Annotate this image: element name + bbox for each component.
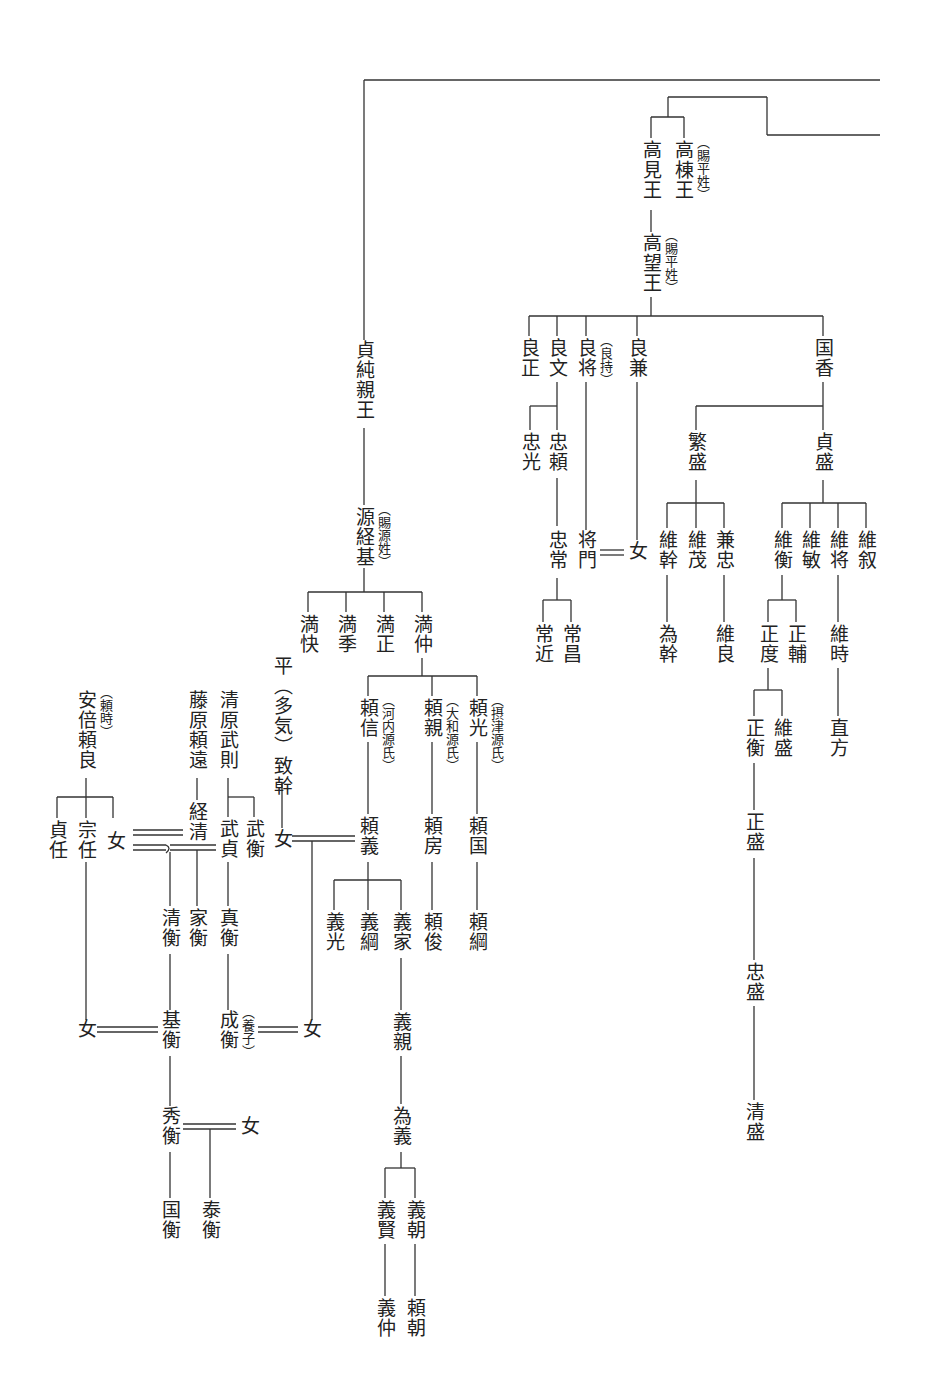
node-sadamori: 貞盛 <box>812 432 834 472</box>
node-naokata: 直方 <box>827 718 849 758</box>
node-korehira: 維衡 <box>771 530 793 570</box>
node-abe-yoritoki: 安倍頼良（頼時） <box>75 690 113 770</box>
node-hidehira: 秀衡 <box>159 1106 181 1146</box>
node-yoritoshi: 頼俊 <box>421 912 443 952</box>
node-tsunekiyo: 経清 <box>186 802 208 842</box>
node-kiyohara-takenori: 清原武則 <box>217 690 239 770</box>
node-yoshifumi: 良文 <box>546 338 568 378</box>
node-masakado: 将門 <box>575 530 597 570</box>
node-takamune: 高棟王（賜平姓） <box>672 140 710 201</box>
node-motohira: 基衡 <box>159 1010 181 1050</box>
node-onna-abe: 女 <box>104 831 126 851</box>
node-muneto: 宗任 <box>75 820 97 860</box>
node-tadamori: 忠盛 <box>743 962 765 1002</box>
node-onna-hidehira: 女 <box>238 1116 260 1136</box>
node-kunihira: 国衡 <box>159 1200 181 1240</box>
node-tsunemoto: 源経基（賜源姓） <box>353 507 391 568</box>
node-mitsunaka: 満仲 <box>411 614 433 654</box>
node-fujiwara-yoritoo: 藤原頼遠 <box>186 690 208 770</box>
node-tameyoshi: 為義 <box>390 1106 412 1146</box>
node-masamori: 正盛 <box>743 812 765 852</box>
node-tadayori: 忠頼 <box>546 432 568 472</box>
node-sanehira: 真衡 <box>217 908 239 948</box>
node-kiyohira: 清衡 <box>159 908 181 948</box>
node-tadamitsu: 忠光 <box>519 432 541 472</box>
node-yoshikata: 義賢 <box>374 1200 396 1240</box>
node-koreyoshi: 維良 <box>713 624 735 664</box>
node-yorimitsu: 頼光（摂津源氏） <box>466 698 504 772</box>
node-mitsumasa: 満正 <box>373 614 395 654</box>
node-yoritsuna: 頼綱 <box>466 912 488 952</box>
node-takehira: 武衡 <box>243 819 265 859</box>
node-tadatsune: 忠常 <box>546 530 568 570</box>
node-sadato: 貞任 <box>46 820 68 860</box>
node-yoshimitsu: 義光 <box>323 912 345 952</box>
node-tamemoto: 為幹 <box>656 624 678 664</box>
node-yoshitsuna: 義綱 <box>357 912 379 952</box>
node-kiyomori: 清盛 <box>743 1102 765 1142</box>
node-yoshiie: 義家 <box>390 912 412 952</box>
node-yorinobu: 頼信（河内源氏） <box>357 698 395 772</box>
node-munemoto: 平（多気）致幹 <box>271 656 293 796</box>
node-koremasa: 維将 <box>827 530 849 570</box>
node-tsunemasa: 常昌 <box>560 624 582 664</box>
node-takami: 高見王 <box>640 140 662 200</box>
node-yoshichika: 義親 <box>390 1012 412 1052</box>
node-onna-muneto: 女 <box>75 1019 97 1039</box>
node-yoritomo: 頼朝 <box>404 1298 426 1338</box>
node-kanetada: 兼忠 <box>713 530 735 570</box>
connector-lines <box>0 0 934 1394</box>
node-yorikuni: 頼国 <box>466 816 488 856</box>
node-onna-yoshiie: 女 <box>300 1019 322 1039</box>
node-yoriyoshi: 頼義 <box>357 816 379 856</box>
node-yoshitomo: 義朝 <box>404 1200 426 1240</box>
node-yoshimasa: 良正 <box>518 338 540 378</box>
node-koreshige: 維茂 <box>685 530 707 570</box>
node-narihira: 成衡（養子） <box>217 1010 255 1058</box>
node-yasuhira: 泰衡 <box>199 1200 221 1240</box>
node-mitsusue: 満季 <box>335 614 357 654</box>
node-takesada: 武貞 <box>217 819 239 859</box>
node-koretoshi: 維敏 <box>799 530 821 570</box>
node-koremoto: 維幹 <box>656 530 678 570</box>
node-masasuke: 正輔 <box>785 624 807 664</box>
node-shigemori: 繁盛 <box>685 432 707 472</box>
node-yoshinaka: 義仲 <box>374 1298 396 1338</box>
node-koremori: 維盛 <box>771 718 793 758</box>
node-yoshimasa2: 良将（良持） <box>575 338 613 386</box>
node-takamochi: 高望王（賜平姓） <box>640 233 678 294</box>
node-iehira: 家衡 <box>186 908 208 948</box>
node-yorifusa: 頼房 <box>421 816 443 856</box>
node-yorichika: 頼親（大和源氏） <box>421 698 459 772</box>
node-tsunechika: 常近 <box>532 624 554 664</box>
node-masanori: 正度 <box>757 624 779 664</box>
node-koretoki: 維時 <box>827 624 849 664</box>
node-korenobu: 維叙 <box>855 530 877 570</box>
node-masahira: 正衡 <box>743 718 765 758</box>
node-kunika: 国香 <box>812 338 834 378</box>
node-onna-yoshikane: 女 <box>626 541 648 561</box>
node-yoshikane: 良兼 <box>626 338 648 378</box>
node-sadazumi: 貞純親王 <box>353 340 375 420</box>
node-onna-munemoto: 女 <box>271 829 293 849</box>
node-mitsuyoshi: 満快 <box>297 614 319 654</box>
